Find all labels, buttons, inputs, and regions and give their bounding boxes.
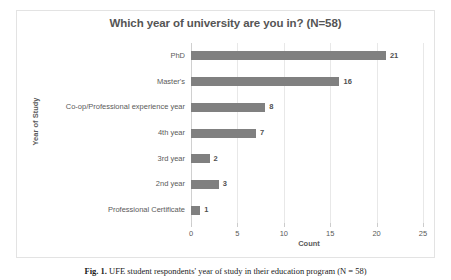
x-tick-10	[284, 223, 285, 227]
x-tick-label-0: 0	[176, 229, 206, 238]
bar-value-label: 16	[343, 78, 351, 86]
bar	[191, 103, 265, 112]
bar-row: 4th year7	[191, 129, 423, 138]
figure-caption: Fig. 1. UFE student respondents' year of…	[16, 266, 435, 276]
x-tick-0	[191, 223, 192, 227]
category-label: PhD	[170, 52, 185, 60]
bar-value-label: 3	[223, 181, 227, 189]
bar	[191, 77, 339, 86]
x-tick-20	[377, 223, 378, 227]
bar	[191, 154, 210, 163]
bar-row: 2nd year3	[191, 180, 423, 189]
x-tick-label-5: 5	[222, 229, 252, 238]
bar-value-label: 7	[260, 129, 264, 137]
x-tick-5	[237, 223, 238, 227]
figure-caption-label: Fig. 1.	[84, 266, 106, 276]
x-tick-label-15: 15	[315, 229, 345, 238]
category-label: 3rd year	[157, 155, 185, 163]
bar-row: 3rd year2	[191, 154, 423, 163]
bar-value-label: 21	[390, 52, 398, 60]
category-label: 2nd year	[156, 181, 185, 189]
bar	[191, 129, 256, 138]
category-label: Master's	[157, 78, 185, 86]
chart-title: Which year of university are you in? (N=…	[17, 17, 434, 29]
bar-row: Master's16	[191, 77, 423, 86]
bar-row: Professional Certificate1	[191, 206, 423, 215]
bar-row: PhD21	[191, 51, 423, 60]
bar	[191, 51, 386, 60]
x-axis-title: Count	[189, 239, 429, 248]
x-tick-15	[330, 223, 331, 227]
bar-value-label: 2	[214, 155, 218, 163]
x-tick-label-20: 20	[362, 229, 392, 238]
category-label: Co-op/Professional experience year	[66, 104, 185, 112]
bar-row: Co-op/Professional experience year8	[191, 103, 423, 112]
figure-container: Which year of university are you in? (N=…	[0, 0, 451, 280]
x-tick-25	[423, 223, 424, 227]
category-label: 4th year	[158, 129, 185, 137]
chart-frame: Which year of university are you in? (N=…	[16, 10, 435, 258]
plot-area: 0510152025 PhD21Master's16Co-op/Professi…	[191, 43, 423, 223]
x-tick-label-10: 10	[269, 229, 299, 238]
bar	[191, 206, 200, 215]
figure-caption-text: UFE student respondents' year of study i…	[109, 266, 367, 276]
y-axis-title: Year of Study	[31, 82, 40, 162]
x-tick-label-25: 25	[408, 229, 438, 238]
bar-value-label: 8	[269, 104, 273, 112]
bar-value-label: 1	[204, 206, 208, 214]
bar	[191, 180, 219, 189]
gridline-25	[423, 43, 424, 223]
category-label: Professional Certificate	[108, 206, 185, 214]
